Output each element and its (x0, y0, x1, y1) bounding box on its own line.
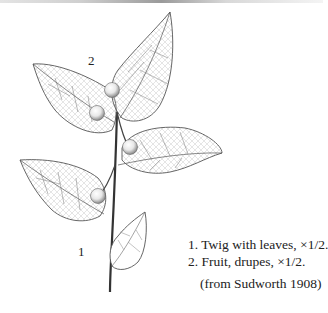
source-citation: (from Sudworth 1908) (200, 276, 322, 292)
leaf-lower-small (110, 212, 146, 269)
figure-label-2: 2 (88, 53, 95, 69)
figure-caption: 1. Twig with leaves, ×1/2. 2. Fruit, dru… (188, 236, 328, 270)
leaf-upper-left (33, 64, 116, 133)
caption-line-fruit: 2. Fruit, drupes, ×1/2. (188, 253, 328, 270)
leaf-upper-right (112, 12, 173, 121)
caption-line-twig: 1. Twig with leaves, ×1/2. (188, 236, 328, 253)
figure-label-1: 1 (78, 244, 85, 260)
